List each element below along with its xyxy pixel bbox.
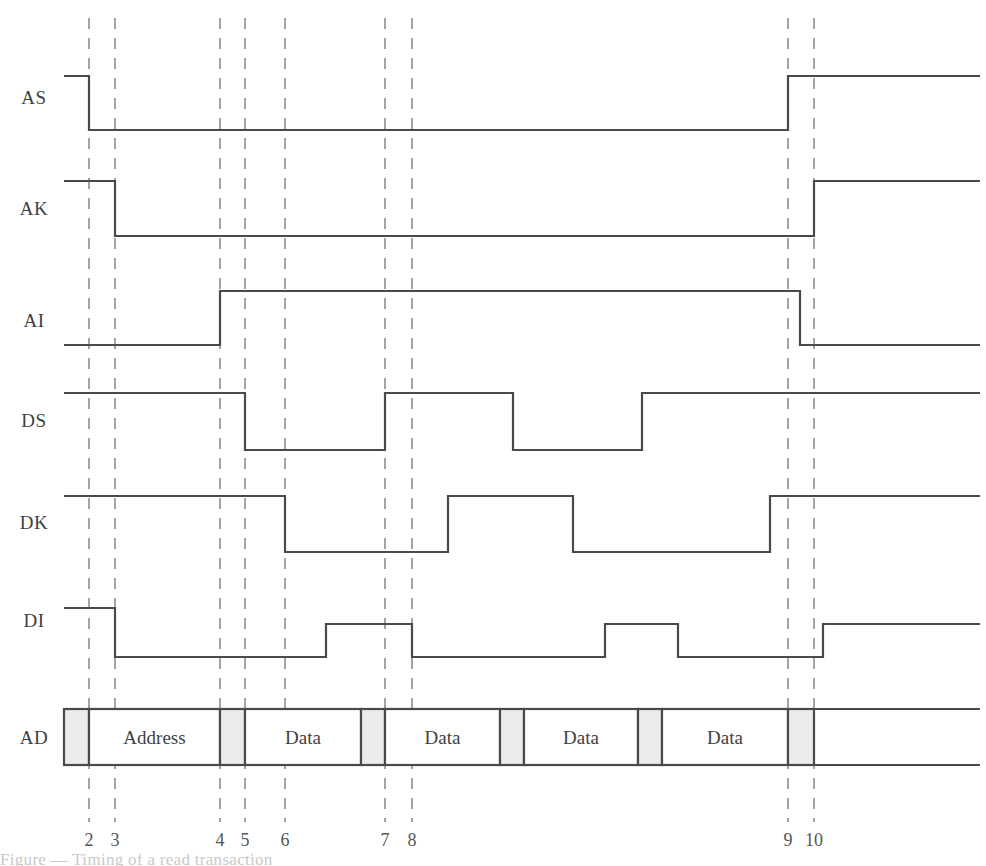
tick-label-8: 8 [408,830,417,850]
address-data-bus-group: AddressDataDataDataData [64,709,980,765]
tick-label-5: 5 [241,830,250,850]
tick-label-2: 2 [85,830,94,850]
bus-transition-cell [638,709,662,765]
bus-transition-cell [64,709,89,765]
waveform-AS [64,76,980,130]
bus-cell-label: Data [425,727,461,748]
signal-label-DI: DI [23,610,44,631]
waveforms-group [64,76,980,657]
signal-label-AI: AI [23,310,44,331]
tick-label-4: 4 [216,830,225,850]
signal-label-AK: AK [20,198,48,219]
tick-label-10: 10 [805,830,823,850]
timing-diagram-canvas: AddressDataDataDataData ASAKAIDSDKDIAD 2… [0,0,986,866]
bus-transition-cell [361,709,385,765]
signal-label-AS: AS [21,87,46,108]
signal-labels-group: ASAKAIDSDKDIAD [20,87,48,748]
waveform-DK [64,496,980,552]
gridlines-group [89,18,814,822]
bus-cell-label: Data [707,727,743,748]
bus-cell-label: Data [285,727,321,748]
timing-diagram-root: AddressDataDataDataData ASAKAIDSDKDIAD 2… [0,0,986,866]
bus-transition-cell [500,709,524,765]
tick-label-7: 7 [381,830,390,850]
tick-label-6: 6 [281,830,290,850]
signal-label-DK: DK [20,512,48,533]
waveform-AI [64,291,980,345]
figure-caption: Figure — Timing of a read transaction [0,854,986,866]
bus-cell-label: Address [123,727,185,748]
tick-labels-group: 2345678910 [85,830,824,850]
tick-label-9: 9 [784,830,793,850]
tick-label-3: 3 [111,830,120,850]
bus-transition-cell [788,709,814,765]
bus-cell-label: Data [563,727,599,748]
signal-label-DS: DS [21,410,46,431]
waveform-DS [64,393,980,450]
bus-transition-cell [220,709,245,765]
waveform-DI [64,608,980,657]
waveform-AK [64,181,980,236]
signal-label-AD: AD [20,727,48,748]
